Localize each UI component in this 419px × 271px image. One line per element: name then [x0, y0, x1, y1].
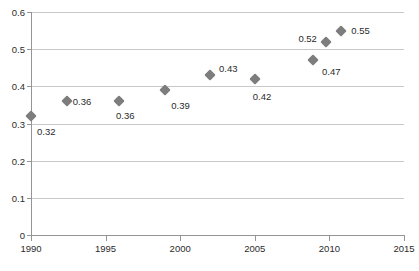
- x-axis-tick-label: 2005: [244, 243, 265, 254]
- plot-area: [31, 12, 404, 235]
- x-axis-tick-mark: [255, 236, 256, 241]
- y-axis-tick-mark: [27, 161, 31, 162]
- x-axis-tick-label: 2000: [170, 243, 191, 254]
- y-axis-tick-mark: [27, 124, 31, 125]
- x-axis-tick-label: 2015: [393, 243, 414, 254]
- gridline-horizontal: [31, 198, 404, 199]
- x-axis-tick-label: 2010: [319, 243, 340, 254]
- y-axis-tick-label: 0.5: [1, 44, 25, 55]
- x-axis-line: [31, 235, 405, 236]
- x-axis-tick-mark: [31, 236, 32, 241]
- y-axis-tick-label: 0.2: [1, 155, 25, 166]
- data-point-label: 0.43: [219, 63, 238, 74]
- y-axis-tick-mark: [27, 12, 31, 13]
- data-point-label: 0.42: [253, 91, 272, 102]
- gridline-horizontal: [31, 161, 404, 162]
- y-axis-tick-mark: [27, 49, 31, 50]
- data-point-label: 0.39: [171, 100, 190, 111]
- x-axis-tick-label: 1995: [95, 243, 116, 254]
- y-axis-tick-label: 0.4: [1, 81, 25, 92]
- y-axis-tick-label: 0.1: [1, 192, 25, 203]
- gridline-horizontal: [31, 86, 404, 87]
- data-point-label: 0.55: [351, 25, 370, 36]
- data-point-label: 0.47: [322, 66, 341, 77]
- y-axis-tick-mark: [27, 86, 31, 87]
- caption-strip: [0, 258, 419, 271]
- y-axis-tick-label: 0.3: [1, 118, 25, 129]
- gridline-horizontal: [31, 124, 404, 125]
- y-axis-line: [31, 12, 32, 236]
- y-axis-tick-label: 0: [1, 230, 25, 241]
- data-point-label: 0.32: [37, 126, 56, 137]
- data-point-label: 0.52: [298, 33, 317, 44]
- x-axis-tick-label: 1990: [20, 243, 41, 254]
- data-point-label: 0.36: [73, 96, 92, 107]
- y-axis-tick-mark: [27, 198, 31, 199]
- x-axis-tick-mark: [329, 236, 330, 241]
- scatter-chart: 00.10.20.30.40.50.6 19901995200020052010…: [0, 0, 419, 271]
- data-point-label: 0.36: [116, 110, 135, 121]
- y-axis-tick-labels: 00.10.20.30.40.50.6: [0, 0, 25, 271]
- y-axis-tick-label: 0.6: [1, 7, 25, 18]
- gridline-horizontal: [31, 49, 404, 50]
- gridline-horizontal: [31, 12, 404, 13]
- x-axis-tick-mark: [106, 236, 107, 241]
- x-axis-tick-mark: [404, 236, 405, 241]
- x-axis-tick-mark: [180, 236, 181, 241]
